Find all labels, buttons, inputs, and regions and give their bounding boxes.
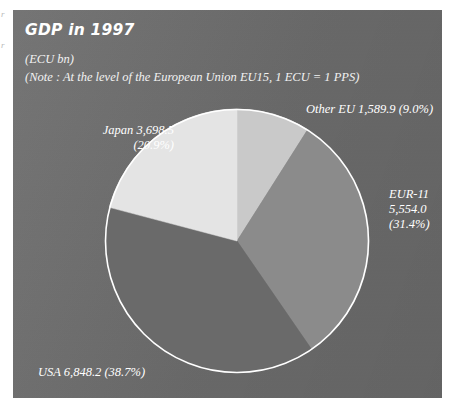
pie-label-japan-line1: Japan 3,698.5 <box>34 123 174 138</box>
pie-label-usa: USA 6,848.2 (38.7%) <box>38 365 145 380</box>
pie-label-eur11-line1: EUR-11 <box>389 187 442 202</box>
page-edge-mark-lower: r <box>1 41 4 50</box>
pie-label-japan-line2: (20.9%) <box>34 138 174 153</box>
pie-label-eur11-line2: 5,554.0 <box>389 202 442 217</box>
pie-label-usa-text: USA 6,848.2 (38.7%) <box>38 365 145 380</box>
page-edge-marks: r r <box>0 0 13 412</box>
pie-label-eur11-line3: (31.4%) <box>389 217 442 232</box>
pie-label-eur11: EUR-11 5,554.0 (31.4%) <box>389 187 442 232</box>
chart-units-label: (ECU bn) <box>25 52 74 67</box>
figure-panel: GDP in 1997 (ECU bn) (Note : At the leve… <box>13 10 442 398</box>
page-title: GDP in 1997 <box>25 21 134 39</box>
pie-label-other-eu-text: Other EU 1,589.9 (9.0%) <box>306 102 433 117</box>
pie-label-other-eu: Other EU 1,589.9 (9.0%) <box>306 102 433 117</box>
chart-note-label: (Note : At the level of the European Uni… <box>25 70 359 85</box>
page-edge-mark-upper: r <box>1 10 4 19</box>
pie-label-japan: Japan 3,698.5 (20.9%) <box>34 123 174 153</box>
